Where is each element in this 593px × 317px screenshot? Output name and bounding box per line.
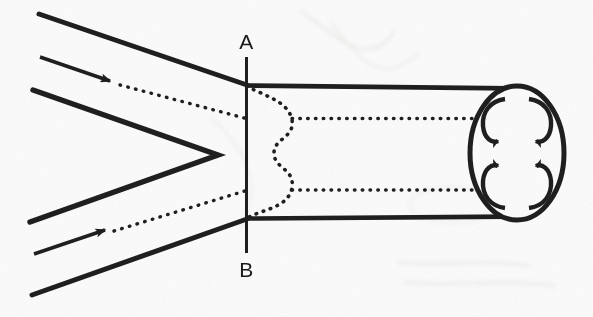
diagram-canvas: A B	[0, 0, 593, 317]
paper-grain-overlay	[0, 0, 593, 317]
figure-root: A B	[0, 0, 593, 317]
